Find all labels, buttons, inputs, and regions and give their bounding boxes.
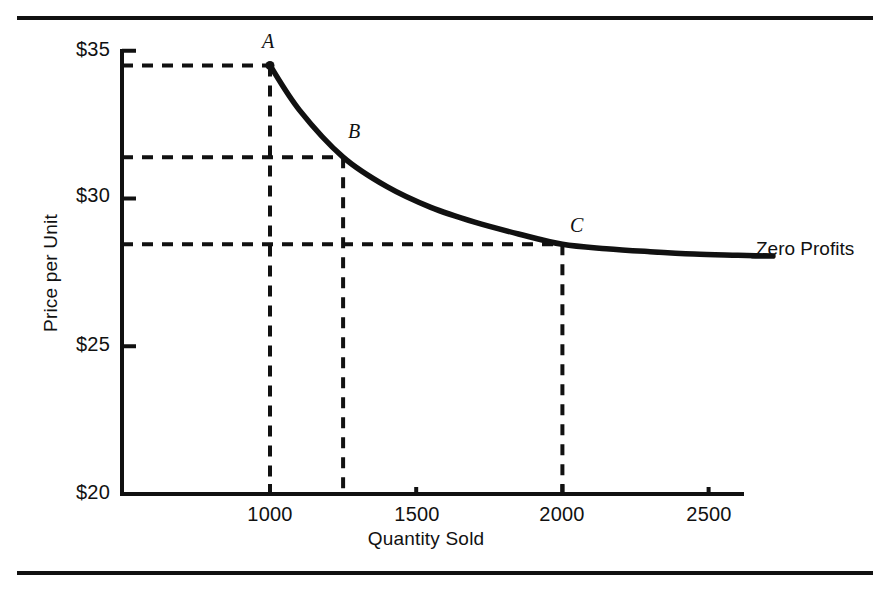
y-axis-title-wrapper: Price per Unit xyxy=(40,178,62,368)
y-tick-label-20: $20 xyxy=(44,481,110,504)
point-label-c: C xyxy=(570,214,583,237)
y-tick-label-35: $35 xyxy=(44,38,110,61)
x-tick-label-1000: 1000 xyxy=(225,503,315,526)
y-axis-title: Price per Unit xyxy=(40,178,62,368)
x-axis-title: Quantity Sold xyxy=(316,528,536,550)
zero-profits-annotation: Zero Profits xyxy=(756,238,854,260)
x-tick-label-2500: 2500 xyxy=(664,503,754,526)
point-label-a: A xyxy=(262,30,274,53)
x-tick-label-2000: 2000 xyxy=(517,503,607,526)
point-label-b: B xyxy=(348,120,360,143)
curve-group xyxy=(270,66,773,257)
chart-plot xyxy=(0,0,889,589)
axes xyxy=(120,49,744,494)
figure-container: $35 $30 $25 $20 1000 1500 2000 2500 Pric… xyxy=(0,0,889,589)
y-tick-marks xyxy=(122,51,136,347)
point-marker-A xyxy=(266,61,275,70)
x-tick-label-1500: 1500 xyxy=(372,503,462,526)
zero-profits-curve xyxy=(270,66,773,257)
guide-lines xyxy=(122,66,562,494)
point-markers xyxy=(266,61,275,70)
